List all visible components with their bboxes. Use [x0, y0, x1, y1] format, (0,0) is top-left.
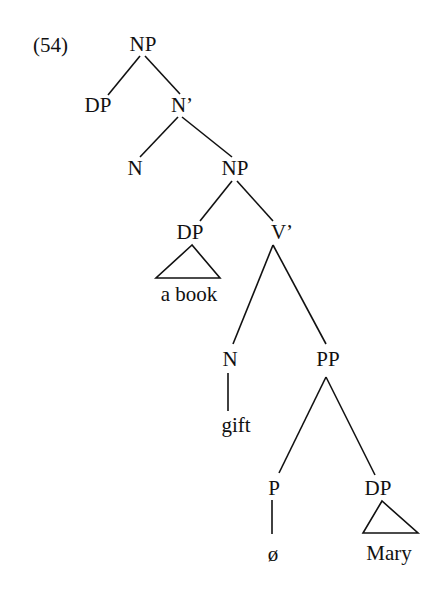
triangle-mary: [363, 501, 418, 533]
leaf-a-book: a book: [161, 283, 218, 305]
triangle-a-book: [156, 245, 220, 278]
leaf-mary: Mary: [366, 542, 412, 564]
branch-vbar-pp: [273, 245, 326, 344]
branch-nbar-n: [140, 117, 178, 157]
branch-pp-dp: [326, 377, 375, 475]
branch-np-dp-obj: [200, 181, 232, 221]
node-np-comp: NP: [222, 157, 249, 179]
node-dp-mary: DP: [365, 477, 392, 499]
branch-np-nbar: [145, 56, 180, 94]
node-dp-spec: DP: [85, 94, 112, 116]
node-n-bar: N’: [171, 94, 193, 116]
node-n-head: N: [127, 157, 142, 179]
tree-branches: [0, 0, 439, 600]
node-v-bar: V’: [271, 221, 293, 243]
branch-np-dp: [108, 56, 140, 95]
branch-pp-p: [279, 377, 326, 473]
node-dp-obj: DP: [177, 221, 204, 243]
leaf-null-p: ø: [268, 543, 279, 565]
node-np-root: NP: [130, 33, 157, 55]
node-p: P: [268, 477, 280, 499]
branch-np-vbar: [237, 181, 273, 221]
example-number: (54): [33, 34, 68, 56]
branch-nbar-np: [182, 117, 232, 157]
branch-vbar-n: [233, 245, 273, 344]
syntax-tree: (54) NP DP N’ N NP DP V’ a book N PP gif…: [0, 0, 439, 600]
leaf-gift: gift: [221, 414, 250, 436]
node-n-gift: N: [222, 348, 237, 370]
node-pp: PP: [316, 348, 339, 370]
